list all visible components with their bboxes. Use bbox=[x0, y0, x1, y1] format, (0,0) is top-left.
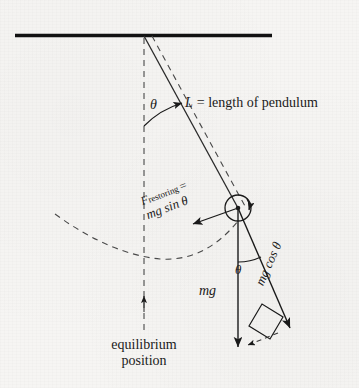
pendulum-string bbox=[144, 36, 238, 208]
theta-arc-bob bbox=[238, 257, 261, 262]
length-symbol: L bbox=[185, 95, 193, 110]
pendulum-diagram: θ L= length of pendulum Frestoring= mg s… bbox=[0, 0, 359, 388]
equilibrium-line2: position bbox=[71, 353, 217, 369]
swing-path-arc bbox=[55, 214, 238, 259]
restoring-force-arrow bbox=[193, 208, 238, 224]
equilibrium-position-label: equilibrium position bbox=[71, 337, 217, 368]
theta-bob-label: θ bbox=[235, 263, 241, 278]
length-indicator-dashed bbox=[152, 36, 246, 208]
length-text: = length of pendulum bbox=[197, 95, 318, 110]
theta-top-label: θ bbox=[150, 97, 157, 113]
right-angle-marker bbox=[249, 304, 283, 339]
weight-label: mg bbox=[199, 283, 216, 299]
length-label: L= length of pendulum bbox=[185, 95, 318, 111]
equilibrium-line1: equilibrium bbox=[71, 337, 217, 353]
